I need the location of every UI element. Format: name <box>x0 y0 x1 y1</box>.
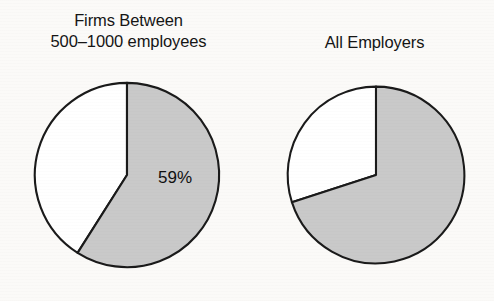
pie-slice-label-left: 59% <box>151 168 199 188</box>
chart-panel-firms-500-1000: Firms Between 500–1000 employees 59% <box>0 0 255 301</box>
chart-title-right-line-1: All Employers <box>255 32 494 53</box>
chart-title-left-line-1: Firms Between <box>1 10 256 31</box>
chart-title-right: All Employers <box>255 32 494 53</box>
pie-chart-right <box>282 81 470 269</box>
pie-svg-right <box>282 81 470 269</box>
chart-panel-all-employers: All Employers 70% <box>255 0 494 301</box>
pie-chart-figure: Firms Between 500–1000 employees 59% All… <box>0 0 494 301</box>
chart-title-left-line-2: 500–1000 employees <box>1 31 256 52</box>
chart-title-left: Firms Between 500–1000 employees <box>1 10 256 52</box>
